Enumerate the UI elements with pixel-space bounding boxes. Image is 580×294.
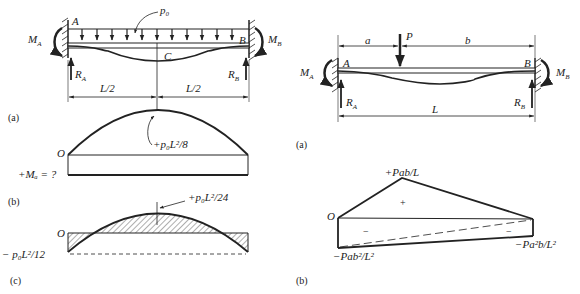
- left-moment-diagram-fixed: O +p₀L²/24 − p₀L²/12 (c): [2, 191, 248, 287]
- caption-right-a: (a): [296, 139, 307, 151]
- caption-right-b: (b): [296, 275, 308, 287]
- moment-a-label: MA: [27, 33, 42, 48]
- right-reaction-a-label: RA: [345, 96, 358, 111]
- right-left-wall-icon: [332, 58, 338, 92]
- load-p0-label: p₀: [159, 4, 170, 16]
- origin-label-c: O: [57, 227, 65, 239]
- caption-left-c: (c): [10, 275, 21, 287]
- unknown-moment-label: +Mₐ = ?: [18, 168, 57, 180]
- right-reaction-b-label: RB: [513, 96, 526, 111]
- right-moment-b-label: MB: [555, 66, 570, 81]
- right-beam: A B P a b L MA MB RA RB (a): [296, 30, 570, 151]
- dim-right-label: L/2: [185, 82, 201, 94]
- right-peak-label: +Pab/L: [385, 166, 419, 178]
- left-wall-icon: [62, 18, 68, 58]
- right-moment-left-icon: [325, 60, 333, 86]
- minus-sign-right: −: [506, 226, 512, 237]
- dim-left-label: L/2: [99, 82, 115, 94]
- right-origin-label: O: [327, 210, 335, 222]
- right-moment-a-label: MA: [299, 66, 314, 81]
- end-b-label: B: [239, 34, 246, 46]
- right-moment-diagram: +Pab/L + − − O −Pab²/L² −Pa²b/L² (b): [296, 166, 557, 287]
- right-end-b-label: B: [524, 57, 531, 69]
- right-end-a-label: A: [342, 57, 350, 69]
- end-a-label: A: [71, 15, 79, 27]
- moment-b-label: MB: [267, 33, 282, 48]
- reaction-a-label: RA: [74, 68, 87, 83]
- dim-b-label: b: [465, 34, 471, 46]
- minus-sign-left: −: [363, 226, 369, 237]
- end-right-label: −Pa²b/L²: [515, 238, 557, 250]
- end-label-c: − p₀L²/12: [2, 248, 45, 260]
- caption-left-a: (a): [8, 112, 19, 124]
- moment-right-icon: [255, 28, 263, 56]
- left-beam: A B C p₀ MA MB RA RB L/2 L/2 (a): [8, 4, 282, 124]
- origin-label-b: O: [57, 147, 65, 159]
- right-moment-right-icon: [541, 60, 549, 86]
- mid-c-label: C: [164, 50, 172, 62]
- end-left-label: −Pab²/L²: [333, 250, 375, 262]
- right-wall-icon: [249, 20, 255, 60]
- plus-sign: +: [400, 197, 406, 208]
- dim-L-label: L: [431, 103, 438, 115]
- caption-left-b: (b): [8, 196, 20, 208]
- peak-label-c: +p₀L²/24: [188, 191, 229, 203]
- right-right-wall-icon: [535, 58, 541, 92]
- dim-a-label: a: [365, 34, 371, 46]
- moment-left-icon: [55, 28, 63, 56]
- peak-label-b: +p₀L²/8: [153, 138, 188, 150]
- reaction-b-label: RB: [227, 68, 240, 83]
- point-load-label: P: [405, 30, 413, 42]
- beam-diagrams: A B C p₀ MA MB RA RB L/2 L/2 (a) O +p₀L²…: [0, 0, 580, 294]
- distributed-load-arrows: [82, 29, 232, 40]
